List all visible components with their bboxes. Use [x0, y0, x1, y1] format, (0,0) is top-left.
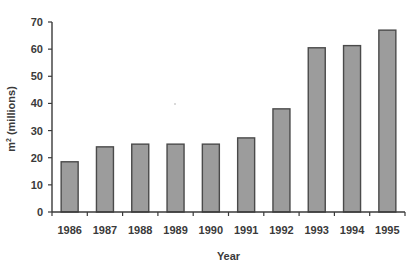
x-tick-label: 1990	[199, 224, 223, 236]
x-tick-label: 1986	[57, 224, 81, 236]
y-axis-ticks: 010203040506070	[31, 16, 52, 218]
bar-1995	[379, 30, 396, 212]
y-axis-title-units: (millions)	[5, 86, 17, 138]
bar-1991	[238, 138, 255, 212]
x-tick-label: 1994	[340, 224, 365, 236]
x-axis-ticks: 1986198719881989199019911992199319941995	[52, 212, 405, 236]
scan-speck	[174, 103, 175, 104]
y-axis-title: m2 (millions)	[5, 86, 17, 152]
bar-1989	[167, 144, 184, 212]
x-axis-title: Year	[217, 250, 241, 262]
x-tick-label: 1989	[163, 224, 187, 236]
bars	[61, 30, 396, 212]
bar-1990	[202, 144, 219, 212]
bar-1986	[61, 162, 78, 212]
x-tick-label: 1992	[269, 224, 293, 236]
x-tick-label: 1991	[234, 224, 258, 236]
bar-1988	[132, 144, 149, 212]
bar-1994	[344, 46, 361, 212]
x-tick-label: 1993	[305, 224, 329, 236]
x-tick-label: 1987	[93, 224, 117, 236]
y-tick-label: 70	[31, 16, 43, 28]
y-tick-label: 10	[31, 179, 43, 191]
y-tick-label: 30	[31, 125, 43, 137]
y-tick-label: 40	[31, 97, 43, 109]
bar-1992	[273, 109, 290, 212]
bar-chart: 010203040506070 198619871988198919901991…	[0, 0, 414, 264]
y-tick-label: 50	[31, 70, 43, 82]
x-tick-label: 1995	[375, 224, 399, 236]
y-tick-label: 60	[31, 43, 43, 55]
bar-1993	[308, 48, 325, 212]
bar-1987	[96, 147, 113, 212]
y-tick-label: 0	[37, 206, 43, 218]
y-tick-label: 20	[31, 152, 43, 164]
y-axis-title-base: m	[5, 142, 17, 152]
x-tick-label: 1988	[128, 224, 152, 236]
